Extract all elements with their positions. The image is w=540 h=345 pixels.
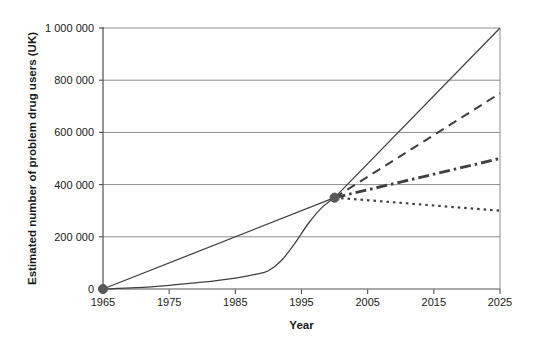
x-tick-label: 1985 bbox=[223, 296, 247, 308]
y-tick-label: 400 000 bbox=[54, 179, 94, 191]
x-tick-label: 2005 bbox=[355, 296, 379, 308]
x-tick-label: 1965 bbox=[91, 296, 115, 308]
x-axis-title: Year bbox=[289, 319, 314, 331]
y-tick-label: 800 000 bbox=[54, 74, 94, 86]
y-tick-label: 200 000 bbox=[54, 231, 94, 243]
origin-marker bbox=[98, 284, 107, 293]
x-tick-label: 1975 bbox=[157, 296, 181, 308]
x-tick-label: 1995 bbox=[289, 296, 313, 308]
chart-container: 0200 000400 000600 000800 0001 000 000 1… bbox=[0, 0, 540, 345]
chart-background bbox=[0, 0, 540, 345]
y-tick-label: 0 bbox=[88, 283, 94, 295]
y-tick-label: 600 000 bbox=[54, 126, 94, 138]
x-tick-label: 2025 bbox=[488, 296, 512, 308]
y-axis-title: Estimated number of problem drug users (… bbox=[26, 32, 38, 285]
line-chart: 0200 000400 000600 000800 0001 000 000 1… bbox=[0, 0, 540, 345]
convergence-marker bbox=[330, 193, 339, 202]
y-tick-label: 1 000 000 bbox=[45, 22, 94, 34]
x-tick-label: 2015 bbox=[422, 296, 446, 308]
